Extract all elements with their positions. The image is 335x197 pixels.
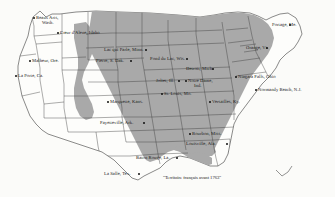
place-beaux-arts-label-line2: Wash. [42, 20, 54, 25]
place-fond-du-lac-label: Fond du Lac, Wis. [150, 56, 185, 61]
place-versailles-dot [209, 101, 211, 103]
place-st-louis-label: St. Louis, Mo. [164, 91, 192, 96]
place-la-porte-label: La Porte, Ca. [18, 73, 43, 78]
place-lac-qui-parle-label: Lac qui Parle, Minn. [104, 47, 144, 52]
place-marquette-dot [107, 101, 109, 103]
place-fayetteville-label: Fayetteville, Ark. [100, 120, 133, 125]
place-beaux-arts-dot [33, 17, 35, 19]
place-niagara-falls-dot [235, 76, 237, 78]
place-la-salle-label: La Salle, Tex. [104, 171, 130, 176]
place-malheur-label: Malheur, Ore. [32, 58, 59, 63]
place-normandy-beach-dot [255, 89, 257, 91]
place-coeur-dalene-label: Cœur d'Alene, Idaho [60, 30, 100, 35]
legend-text: "Territoire français avant 1763" [163, 175, 221, 180]
place-notre-dame-label: Notre Dame,Ind. [188, 78, 222, 88]
french-place-names-map: Beaux Arts,Wash.Cœur d'Alene, IdahoMalhe… [0, 0, 335, 197]
place-la-salle-dot [138, 173, 140, 175]
place-normandy-beach-label: Normandy Beach, N.J. [258, 87, 302, 92]
place-louisville-label: Louisville, Ala. [186, 141, 216, 146]
place-malheur-dot [29, 60, 31, 62]
place-orange-label: Orange, Vt. [246, 45, 268, 50]
place-bourbon-dot [189, 133, 191, 135]
place-versailles-label: Versailles, Ky. [212, 99, 240, 104]
place-niagara-falls-label: Niagara Falls, Ohio [238, 74, 276, 79]
map-graphic [0, 0, 335, 197]
place-marquette-label: Marquette, Kans. [110, 99, 143, 104]
place-pierre-label: Pierre, S. Dak. [96, 58, 124, 63]
place-notre-dame-label-line2: Ind. [194, 83, 202, 88]
place-detroit-label: Detroit, Mich. [186, 66, 213, 71]
place-bourbon-label: Bourbon, Miss. [192, 131, 222, 136]
place-portage-label: Portage, Me. [272, 22, 297, 27]
place-joliet-label: Joliet, Ill. [156, 78, 174, 83]
place-la-porte-dot [15, 75, 17, 77]
place-baton-rouge-label: Baton Rouge, La. [136, 155, 170, 160]
place-beaux-arts-label: Beaux Arts,Wash. [36, 15, 70, 25]
legend-leader-line [276, 166, 292, 176]
